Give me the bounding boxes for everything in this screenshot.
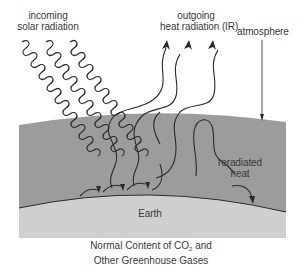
figure-caption: Normal Content of CO2 and Other Greenhou…	[60, 240, 242, 267]
caption-line-2: Other Greenhouse Gases	[60, 255, 242, 267]
earth-label: Earth	[130, 208, 170, 219]
label-line: reradiated	[210, 157, 270, 168]
caption-text: and	[192, 240, 211, 251]
atmosphere-label: atmosphere	[237, 26, 289, 37]
label-line: outgoing	[160, 10, 232, 21]
up-arrowhead-icon	[208, 40, 216, 50]
label-line: heat	[210, 168, 270, 179]
greenhouse-diagram: incoming solar radiation outgoing heat r…	[0, 0, 302, 272]
reradiated-heat-label: reradiated heat	[210, 157, 270, 179]
label-line: solar radiation	[16, 21, 80, 32]
ir-arrowheads	[162, 40, 216, 50]
label-line: heat radiation (IR)	[160, 21, 232, 32]
diagram-canvas	[0, 0, 302, 272]
label-line: incoming	[16, 10, 80, 21]
incoming-solar-radiation-label: incoming solar radiation	[16, 10, 80, 32]
up-arrowhead-icon	[184, 40, 192, 50]
caption-line-1: Normal Content of CO2 and	[60, 240, 242, 255]
caption-text: Normal Content of CO	[90, 240, 189, 251]
outgoing-heat-radiation-label: outgoing heat radiation (IR)	[160, 10, 232, 32]
